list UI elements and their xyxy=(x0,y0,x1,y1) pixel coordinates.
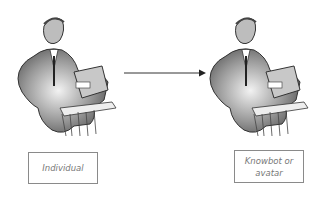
woman-at-desk-clipart-icon xyxy=(196,8,314,138)
knowbot-label-line2: avatar xyxy=(245,167,293,179)
individual-label: Individual xyxy=(42,162,83,174)
arrow-connector xyxy=(123,68,207,78)
knowbot-label-box: Knowbot or avatar xyxy=(234,150,304,183)
woman-at-desk-clipart-icon xyxy=(4,8,122,138)
knowbot-label-line1: Knowbot or xyxy=(245,155,293,167)
individual-label-box: Individual xyxy=(28,152,98,184)
